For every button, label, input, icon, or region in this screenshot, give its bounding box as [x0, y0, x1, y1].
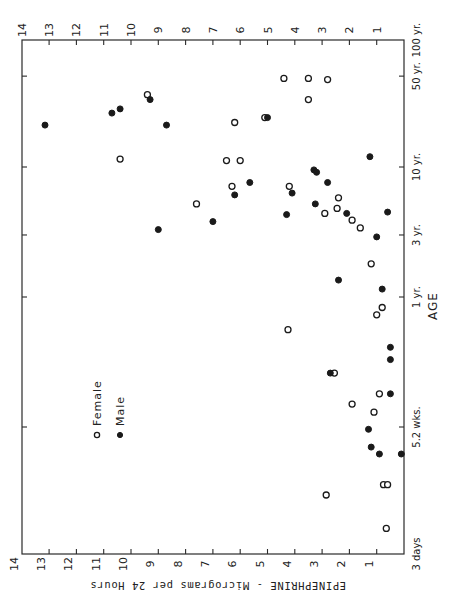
age-tick-label: 5.2 wks.: [411, 406, 422, 447]
top-tick-label: 6: [234, 27, 247, 34]
bottom-tick-label: 6: [226, 561, 239, 568]
point-male: [109, 110, 115, 116]
age-tick-label: 50 yr.: [411, 62, 422, 90]
point-female: [237, 158, 243, 164]
point-male: [289, 190, 295, 196]
point-male: [147, 97, 153, 103]
point-female: [194, 201, 200, 207]
top-axis-ticks: 1234567891011121314: [16, 23, 384, 45]
age-tick-label: 10 yr.: [411, 153, 422, 181]
point-male: [232, 192, 238, 198]
bottom-tick-label: 14: [8, 557, 21, 571]
point-female: [334, 205, 340, 211]
point-male: [366, 426, 372, 432]
point-female: [336, 195, 342, 201]
point-female: [285, 327, 291, 333]
top-tick-label: 12: [70, 23, 83, 37]
y-axis-title: AGE: [426, 292, 440, 320]
legend-marker-female: [94, 432, 99, 437]
scatter-chart: 1234567891011121314 1234567891011121314 …: [0, 0, 450, 605]
point-male: [368, 444, 374, 450]
top-tick-label: 14: [16, 23, 29, 37]
point-male: [367, 154, 373, 160]
bottom-tick-label: 8: [172, 561, 185, 568]
point-male: [284, 212, 290, 218]
plot-frame: [22, 40, 404, 554]
point-male: [376, 451, 382, 457]
bottom-tick-label: 9: [144, 561, 157, 568]
bottom-tick-label: 11: [90, 557, 103, 571]
point-female: [117, 156, 123, 162]
point-male: [387, 357, 393, 363]
point-male: [387, 344, 393, 350]
bottom-tick-label: 4: [281, 561, 294, 568]
point-male: [210, 219, 216, 225]
point-male: [325, 180, 331, 186]
data-points: [42, 75, 404, 531]
top-tick-label: 3: [316, 27, 329, 34]
bottom-tick-label: 13: [35, 557, 48, 571]
top-tick-label: 10: [125, 23, 138, 37]
point-female: [323, 492, 329, 498]
point-female: [383, 525, 389, 531]
point-female: [325, 77, 331, 83]
top-tick-label: 7: [207, 27, 220, 34]
top-tick-label: 8: [180, 27, 193, 34]
legend: Female Male: [91, 380, 127, 437]
point-female: [281, 75, 287, 81]
point-male: [344, 210, 350, 216]
top-tick-label: 5: [262, 27, 275, 34]
top-tick-label: 13: [43, 23, 56, 37]
point-male: [155, 227, 161, 233]
legend-label-female: Female: [91, 380, 104, 426]
legend-marker-male: [117, 432, 122, 437]
point-female: [371, 409, 377, 415]
point-female: [232, 120, 238, 126]
point-female: [322, 210, 328, 216]
point-female: [357, 225, 363, 231]
top-tick-label: 2: [343, 27, 356, 34]
point-male: [247, 180, 253, 186]
point-female: [374, 312, 380, 318]
point-female: [305, 75, 311, 81]
point-male: [385, 209, 391, 215]
bottom-tick-label: 7: [199, 561, 212, 568]
top-tick-label: 9: [152, 27, 165, 34]
point-male: [164, 122, 170, 128]
point-male: [398, 451, 404, 457]
point-male: [379, 286, 385, 292]
point-male: [312, 201, 318, 207]
bottom-tick-label: 3: [308, 561, 321, 568]
age-tick-label: 3 yr.: [411, 224, 422, 246]
point-female: [224, 158, 230, 164]
point-female: [379, 305, 385, 311]
legend-label-male: Male: [114, 396, 127, 426]
point-male: [117, 106, 123, 112]
point-male: [265, 115, 271, 121]
point-male: [327, 370, 333, 376]
point-female: [229, 183, 235, 189]
point-female: [349, 401, 355, 407]
point-male: [374, 234, 380, 240]
point-female: [368, 261, 374, 267]
top-tick-label: 1: [371, 27, 384, 34]
point-female: [286, 183, 292, 189]
bottom-tick-label: 10: [117, 557, 130, 571]
point-female: [376, 391, 382, 397]
bottom-tick-label: 5: [254, 561, 267, 568]
point-male: [314, 169, 320, 175]
right-axis-ticks: 3 days5.2 wks.1 yr.3 yr.10 yr.50 yr.100 …: [399, 23, 422, 571]
point-female: [349, 217, 355, 223]
bottom-axis-ticks: 1234567891011121314: [8, 549, 377, 571]
left-axis-ticks: [22, 76, 27, 427]
age-tick-label: 3 days: [411, 537, 422, 570]
point-male: [42, 122, 48, 128]
bottom-tick-label: 12: [62, 557, 75, 571]
bottom-tick-label: 1: [363, 561, 376, 568]
bottom-tick-label: 2: [335, 561, 348, 568]
point-female: [305, 97, 311, 103]
age-tick-label: 1 yr.: [411, 286, 422, 308]
top-tick-label: 4: [289, 27, 302, 34]
point-male: [387, 391, 393, 397]
point-female: [385, 482, 391, 488]
